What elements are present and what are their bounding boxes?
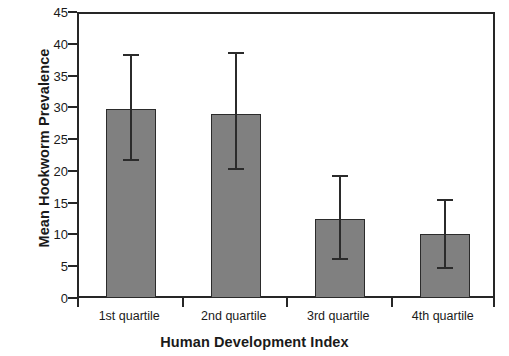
y-axis-tick-mark: [68, 233, 77, 235]
error-bar-cap-lower: [123, 159, 139, 161]
x-axis-title: Human Development Index: [0, 334, 509, 350]
x-axis-tick-mark: [182, 298, 184, 307]
x-axis-tick-mark: [493, 298, 495, 307]
y-axis-tick-label: 40: [38, 36, 68, 51]
x-axis-tick-label: 3rd quartile: [278, 309, 398, 323]
y-axis-tick-mark: [68, 265, 77, 267]
y-axis-tick-label: 35: [38, 68, 68, 83]
x-axis-tick-mark: [391, 298, 393, 307]
hookworm-prevalence-bar-chart: Mean Hookworm Prevalence 051015202530354…: [0, 0, 509, 356]
error-bar-line: [235, 53, 237, 169]
y-axis-tick-mark: [68, 138, 77, 140]
y-axis-tick-label: 10: [38, 227, 68, 242]
error-bar-cap-lower: [332, 258, 348, 260]
error-bar-cap-lower: [437, 267, 453, 269]
x-axis-tick-label: 1st quartile: [69, 309, 189, 323]
y-axis-tick-mark: [68, 297, 77, 299]
x-axis-tick-mark: [77, 298, 79, 307]
y-axis-tick-mark: [68, 43, 77, 45]
y-axis-tick-label: 30: [38, 100, 68, 115]
y-axis-tick-mark: [68, 170, 77, 172]
plot-area: [77, 12, 495, 298]
error-bar-line: [339, 176, 341, 259]
y-axis-tick-mark: [68, 11, 77, 13]
y-axis-tick-label: 15: [38, 195, 68, 210]
error-bar-cap-upper: [332, 175, 348, 177]
y-axis-tick-label: 0: [38, 291, 68, 306]
x-axis-tick-label: 2nd quartile: [174, 309, 294, 323]
error-bar-cap-upper: [123, 54, 139, 56]
y-axis-tick-label: 5: [38, 259, 68, 274]
y-axis-tick-label: 20: [38, 163, 68, 178]
error-bar-cap-lower: [228, 168, 244, 170]
x-axis-tick-label: 4th quartile: [383, 309, 503, 323]
error-bar-line: [130, 55, 132, 160]
y-axis-tick-mark: [68, 202, 77, 204]
error-bar-cap-upper: [437, 199, 453, 201]
y-axis-tick-label: 25: [38, 132, 68, 147]
error-bar-line: [444, 200, 446, 268]
x-axis-tick-mark: [286, 298, 288, 307]
y-axis-tick-mark: [68, 75, 77, 77]
error-bar-cap-upper: [228, 52, 244, 54]
y-axis-tick-mark: [68, 106, 77, 108]
y-axis-tick-label: 45: [38, 5, 68, 20]
